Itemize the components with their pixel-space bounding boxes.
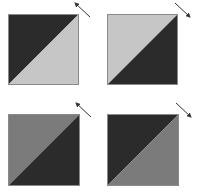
panel-top-right <box>107 3 190 85</box>
panel-top-left <box>8 3 90 85</box>
diagram-canvas <box>0 0 197 196</box>
panel-bottom-right <box>107 103 191 186</box>
panel-bottom-left <box>8 103 91 186</box>
